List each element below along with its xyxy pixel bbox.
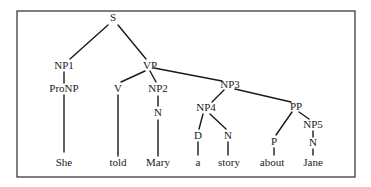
node-n-np4: N bbox=[224, 129, 232, 141]
word-jane: Jane bbox=[303, 156, 323, 168]
node-np1: NP1 bbox=[54, 59, 74, 71]
node-vp: VP bbox=[143, 59, 157, 71]
node-d: D bbox=[194, 129, 202, 141]
edge-s-to-vp bbox=[118, 25, 146, 59]
edge-vp-to-np3 bbox=[154, 68, 222, 81]
node-np3: NP3 bbox=[220, 78, 240, 90]
parse-tree-diagram: SNP1VPProNPVNP2NNP3NP4PPDNPNP5N ShetoldM… bbox=[0, 0, 371, 187]
sentence-words: ShetoldMaryastoryaboutJane bbox=[56, 156, 323, 168]
node-n-np2: N bbox=[154, 106, 162, 118]
word-told: told bbox=[109, 156, 127, 168]
node-v: V bbox=[114, 82, 122, 94]
node-p: P bbox=[271, 135, 277, 147]
edge-s-to-np1 bbox=[70, 25, 108, 59]
word-a: a bbox=[196, 156, 201, 168]
edge-vp-to-v bbox=[121, 71, 145, 82]
word-she: She bbox=[56, 156, 73, 168]
edge-np4-to-d bbox=[199, 114, 203, 129]
node-pronp: ProNP bbox=[49, 82, 78, 94]
word-about: about bbox=[260, 156, 284, 168]
edge-pp-to-p bbox=[276, 112, 292, 135]
edge-np4-to-n bbox=[210, 114, 226, 129]
node-np2: NP2 bbox=[148, 82, 168, 94]
edge-np3-to-pp bbox=[235, 89, 291, 102]
node-np4: NP4 bbox=[196, 101, 216, 113]
word-story: story bbox=[218, 156, 241, 168]
edge-vp-to-np2 bbox=[150, 71, 156, 82]
diagram-frame bbox=[17, 11, 355, 177]
node-pp: PP bbox=[290, 100, 302, 112]
node-np5: NP5 bbox=[303, 118, 323, 130]
node-n-np5: N bbox=[309, 136, 317, 148]
node-s: S bbox=[110, 11, 116, 23]
word-mary: Mary bbox=[146, 156, 170, 168]
